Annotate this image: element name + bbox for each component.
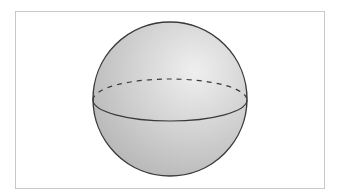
sphere-body [93,22,247,176]
sphere-diagram [0,0,338,196]
